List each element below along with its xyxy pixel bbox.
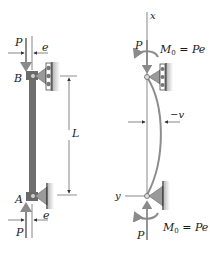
- label-e-top: e: [42, 41, 49, 54]
- label-b: B: [13, 72, 22, 85]
- left-figure: P e B L A e P: [8, 36, 79, 239]
- roller-support-b-icon: [35, 62, 60, 91]
- label-deflection: −v: [170, 109, 184, 120]
- label-moment-top: M0 = Pe: [159, 43, 206, 57]
- eccentric-column-diagram: P e B L A e P x y: [0, 0, 210, 257]
- label-moment-bottom: M0 = Pe: [162, 221, 209, 235]
- pin-support-a-icon: [35, 183, 54, 209]
- label-p-top: P: [14, 36, 23, 49]
- label-p-bottom-right: P: [136, 229, 145, 242]
- label-a: A: [14, 193, 23, 206]
- label-l: L: [71, 127, 79, 140]
- right-figure: x y P M0 = Pe −v: [114, 10, 209, 242]
- deflection-curve: [147, 77, 161, 195]
- column-bar: [29, 76, 36, 196]
- label-p-top-right: P: [134, 39, 143, 52]
- label-e-bottom: e: [43, 209, 50, 222]
- label-x-axis: x: [150, 10, 156, 21]
- label-p-bottom: P: [15, 226, 24, 239]
- label-y-axis: y: [114, 190, 121, 201]
